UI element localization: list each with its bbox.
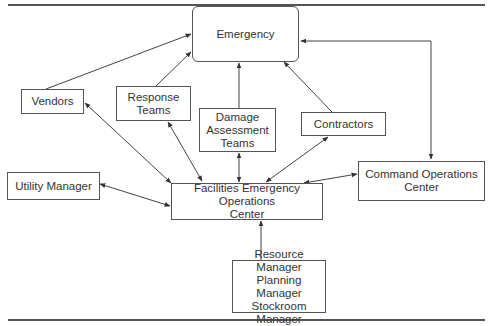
node-label: Resource Manager Planning Manager Stockr… [233,248,325,326]
node-vendors: Vendors [21,89,84,114]
edge-contractors-emergency [284,62,332,112]
edge-feoc-response [168,122,202,181]
node-managers: Resource Manager Planning Manager Stockr… [232,260,326,313]
node-label: Emergency [216,28,274,41]
node-contractors: Contractors [301,112,386,136]
node-label: Response Teams [128,91,180,117]
node-label: Contractors [314,118,373,131]
edge-vendors-emergency [46,34,191,89]
edge-feoc-utility [100,184,170,206]
node-label: Damage Assessment Teams [206,111,269,150]
node-response-teams: Response Teams [116,86,191,121]
node-label: Facilities Emergency Operations Center [172,182,322,221]
node-damage-assessment-teams: Damage Assessment Teams [199,108,276,152]
node-facilities-emergency-operations-center: Facilities Emergency Operations Center [171,183,323,220]
node-utility-manager: Utility Manager [7,172,100,200]
edge-response-emergency [156,52,191,86]
node-label: Command Operations Center [365,168,478,194]
node-command-operations-center: Command Operations Center [358,161,485,201]
node-label: Vendors [31,95,73,108]
node-emergency: Emergency [192,6,299,62]
node-label: Utility Manager [15,180,92,193]
